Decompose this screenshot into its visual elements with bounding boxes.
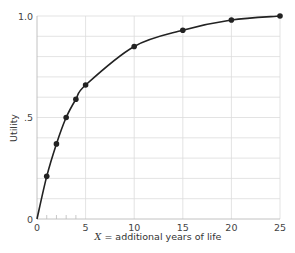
data-markers: [44, 13, 283, 179]
x-axis-description: = additional years of life: [101, 231, 221, 242]
data-point-marker: [229, 17, 235, 23]
data-point-marker: [44, 174, 50, 180]
data-point-marker: [63, 115, 69, 121]
x-tick-label: 20: [225, 222, 237, 233]
y-tick-label: .5: [24, 112, 33, 123]
data-point-marker: [73, 96, 79, 102]
grid: [37, 16, 280, 219]
data-point-marker: [54, 141, 60, 147]
data-point-marker: [83, 82, 89, 88]
y-tick-label: 1.0: [18, 11, 33, 22]
x-axis-label: X = additional years of life: [94, 231, 222, 242]
tick-labels: 05101520250.51.0: [18, 11, 286, 234]
data-point-marker: [277, 13, 283, 19]
x-tick-label: 5: [83, 222, 89, 233]
x-tick-label: 25: [274, 222, 286, 233]
y-axis-label: Utility: [8, 114, 19, 142]
utility-chart: 05101520250.51.0 Utility X = additional …: [0, 0, 295, 253]
data-point-marker: [131, 44, 137, 50]
x-tick-label: 0: [34, 222, 40, 233]
y-tick-label: 0: [27, 214, 33, 225]
data-point-marker: [180, 27, 186, 33]
